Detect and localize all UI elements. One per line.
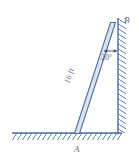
wall-hatching [118,18,126,133]
label-angle: 20° [101,54,112,62]
label-point-a: A [74,145,80,154]
ladder-diagram: B A 16 ft 20° [0,0,139,164]
ladder [75,23,116,134]
ground-hatching [12,133,122,140]
label-point-b: B [124,16,130,25]
